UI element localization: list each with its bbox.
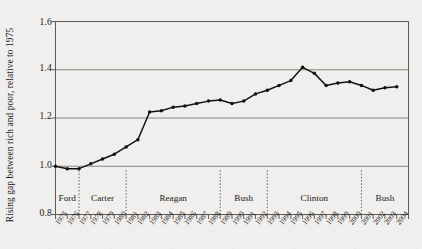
data-point [136, 138, 140, 142]
y-tick-label-2: 1.4 [22, 62, 52, 73]
data-point [383, 86, 387, 90]
y-axis-title: Rising gap between rich and poor, relati… [5, 27, 15, 221]
data-point [77, 167, 81, 171]
data-point [113, 152, 117, 156]
era-label-4: Clinton [284, 193, 344, 203]
data-point [348, 80, 352, 84]
line-chart: Rising gap between rich and poor, relati… [0, 0, 422, 249]
data-point [254, 92, 258, 96]
data-point [230, 102, 234, 106]
data-point [336, 81, 340, 85]
y-tick-label-5: 0.8 [22, 207, 52, 218]
era-label-2: Reagan [143, 193, 203, 203]
data-point [124, 145, 128, 149]
data-point [371, 89, 375, 93]
data-point [313, 72, 317, 76]
data-point [148, 110, 152, 114]
data-point [160, 109, 164, 113]
y-axis-tick-labels: 1.6 1.4 1.2 1.0 0.8 [18, 0, 52, 249]
data-point [207, 99, 211, 103]
data-point [101, 157, 105, 161]
data-point [242, 99, 246, 103]
data-point [54, 165, 58, 169]
y-tick-label-4: 1.0 [22, 159, 52, 170]
data-point [218, 98, 222, 102]
data-point [195, 102, 199, 106]
data-point [277, 84, 281, 88]
y-tick-label-3: 1.2 [22, 110, 52, 121]
data-point [395, 85, 399, 89]
data-point [89, 162, 93, 166]
data-point [171, 105, 175, 109]
era-label-5: Bush [355, 193, 415, 203]
era-label-1: Carter [73, 193, 133, 203]
data-point [360, 84, 364, 88]
data-point [289, 79, 293, 83]
data-point [66, 167, 70, 171]
data-point [183, 104, 187, 108]
era-label-3: Bush [214, 193, 274, 203]
y-axis-title-container: Rising gap between rich and poor, relati… [0, 0, 20, 249]
data-point [266, 89, 270, 93]
data-point [301, 66, 305, 70]
y-tick-label-1: 1.6 [22, 16, 52, 27]
data-point [324, 84, 328, 88]
